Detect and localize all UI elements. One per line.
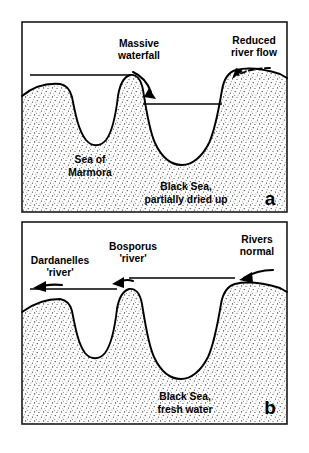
dardanelles-outflow-arrow [33,281,62,292]
rivers-normal-inflow-arrow [239,270,273,283]
label-reduced-river-flow-line2: river flow [231,47,278,58]
label-dardanelles-line1: Dardanelles [31,255,90,266]
label-dardanelles-line2: 'river' [46,267,73,278]
panel-a-letter: a [265,188,276,209]
label-massive-waterfall-line1: Massive [119,38,159,49]
label-bosporus-line1: Bosporus [109,241,157,252]
label-rivers-normal-line1: Rivers [241,234,273,245]
label-black-sea-dried-line2: partially dried up [145,194,228,205]
label-rivers-normal-line2: normal [240,246,274,257]
label-black-sea-dried-line1: Black Sea, [160,181,212,192]
label-massive-waterfall-line2: waterfall [117,50,160,61]
label-sea-of-marmora-line1: Sea of [75,154,106,165]
label-bosporus-line2: 'river' [119,253,146,264]
panel-a: Massive waterfall Reduced river flow Sea… [22,22,287,212]
label-black-sea-fresh-line1: Black Sea, [159,391,211,402]
panel-a-land-stipple [22,60,287,212]
label-black-sea-fresh-line2: fresh water [158,404,213,415]
panel-b-letter: b [264,397,276,418]
label-reduced-river-flow-line1: Reduced [232,35,276,46]
panel-b-land-stipple [22,275,287,424]
panel-b: Dardanelles 'river' Bosporus 'river' Riv… [22,222,287,424]
label-sea-of-marmora-line2: Marmora [68,167,112,178]
cross-section-figure: Massive waterfall Reduced river flow Sea… [0,0,309,453]
